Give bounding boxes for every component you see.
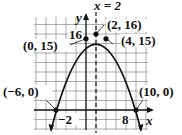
y-tick-16: 16 [69, 27, 83, 42]
x-axis-label: x [145, 113, 153, 128]
y-axis-arrow-icon [83, 13, 89, 20]
point-label-4-15: (4, 15) [121, 33, 156, 48]
point-label-neg6-0: (−6, 0) [3, 84, 39, 99]
point-10-0 [133, 107, 138, 112]
axis-of-symmetry-label: x = 2 [93, 0, 121, 13]
point-label-0-15: (0, 15) [23, 38, 58, 53]
point-label-10-0: (10, 0) [139, 84, 174, 99]
point-label-2-16: (2, 16) [107, 17, 142, 32]
parabola-chart: x = 2 y x 16 −2 8 (2, 16) (0, 15) (4, 15… [0, 0, 182, 135]
y-axis-label: y [74, 10, 82, 25]
x-tick-8: 8 [122, 112, 129, 127]
point-0-15 [83, 36, 88, 41]
x-tick-neg2: −2 [58, 112, 72, 127]
point-2-16 [93, 31, 98, 36]
point-4-15 [103, 36, 108, 41]
